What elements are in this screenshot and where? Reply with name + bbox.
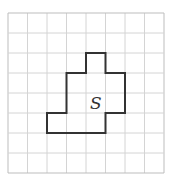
grid-lines xyxy=(8,13,164,173)
shape-label: S xyxy=(90,93,102,113)
grid-diagram: S xyxy=(0,0,174,183)
